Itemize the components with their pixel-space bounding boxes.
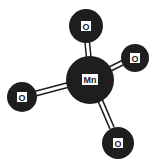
atom-label: O: [114, 139, 121, 149]
atom-o-top: O: [69, 9, 103, 43]
atom-o-left: O: [7, 82, 37, 112]
atom-o-right: O: [121, 44, 149, 72]
atom-label: O: [82, 22, 89, 32]
atom-mn: Mn: [66, 56, 114, 104]
atom-o-bottom: O: [102, 127, 134, 159]
bond-mn-o-bottom: [100, 100, 112, 128]
bond-mn-o-left: [34, 85, 68, 94]
atom-label: O: [131, 54, 138, 64]
atom-label: O: [18, 93, 25, 103]
atom-label: Mn: [84, 75, 97, 85]
molecule-diagram: O O O O Mn: [0, 0, 158, 167]
